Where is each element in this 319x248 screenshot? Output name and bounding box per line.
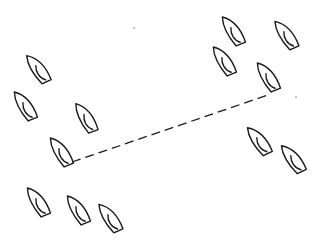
boat-icon: [13, 87, 38, 122]
boat-icon: [221, 12, 246, 47]
dashed-course-line: [72, 95, 268, 162]
boat-icon: [256, 58, 281, 93]
boat-icon: [212, 42, 237, 77]
boat-icon: [74, 100, 98, 135]
boat-icon: [246, 122, 272, 157]
boat-icon: [26, 183, 51, 218]
boat-icon: [97, 199, 123, 234]
boats-group: [13, 12, 307, 234]
speck: [133, 27, 135, 29]
boat-icon: [25, 50, 51, 85]
boat-icon: [49, 133, 74, 168]
boat-icon: [66, 191, 91, 226]
race-course-diagram: [0, 0, 319, 248]
speck: [295, 96, 297, 98]
boat-icon: [280, 140, 306, 175]
boat-icon: [273, 16, 299, 51]
dashed-line: [72, 95, 268, 162]
